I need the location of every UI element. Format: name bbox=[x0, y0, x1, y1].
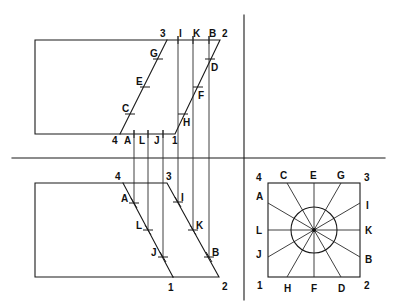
point-label-K: K bbox=[193, 28, 201, 39]
end-label-D: D bbox=[338, 283, 345, 294]
point-label-B: B bbox=[209, 28, 216, 39]
point-label-E: E bbox=[136, 76, 143, 87]
corner-label-3: 3 bbox=[160, 28, 166, 39]
end-label-F: F bbox=[311, 283, 317, 294]
point-label-F: F bbox=[198, 90, 204, 101]
point-label-J: J bbox=[151, 247, 157, 258]
point-label-K: K bbox=[196, 220, 204, 231]
point-label-L: L bbox=[136, 220, 142, 231]
top-view: 3241IKBALJGECDFH bbox=[35, 28, 228, 146]
corner-label-2: 2 bbox=[222, 28, 228, 39]
point-label-I: I bbox=[181, 192, 184, 203]
corner-label-4: 4 bbox=[112, 135, 118, 146]
end-label-4: 4 bbox=[256, 172, 262, 183]
corner-label-1: 1 bbox=[172, 135, 178, 146]
front-view: 4312ALJIKB bbox=[35, 171, 228, 293]
orthographic-projection-diagram: 3241IKBALJGECDFH 4312ALJIKB 4CEG3AILKJB1… bbox=[0, 0, 395, 308]
point-label-G: G bbox=[150, 48, 158, 59]
end-label-2: 2 bbox=[364, 280, 370, 291]
point-label-D: D bbox=[211, 62, 218, 73]
end-label-I: I bbox=[366, 200, 369, 211]
end-label-K: K bbox=[365, 225, 373, 236]
corner-label-2: 2 bbox=[222, 281, 228, 292]
point-label-I: I bbox=[179, 28, 182, 39]
point-label-C: C bbox=[122, 103, 129, 114]
end-label-C: C bbox=[280, 170, 287, 181]
end-view: 4CEG3AILKJB1HFD2 bbox=[256, 170, 373, 294]
end-label-G: G bbox=[337, 170, 345, 181]
point-label-B: B bbox=[212, 247, 219, 258]
point-label-H: H bbox=[183, 117, 190, 128]
end-label-3: 3 bbox=[364, 172, 370, 183]
end-label-1: 1 bbox=[257, 280, 263, 291]
view-dividers bbox=[12, 15, 385, 300]
corner-label-3: 3 bbox=[166, 171, 172, 182]
end-label-L: L bbox=[256, 225, 262, 236]
point-label-L: L bbox=[139, 135, 145, 146]
point-label-J: J bbox=[154, 135, 160, 146]
point-label-A: A bbox=[121, 193, 128, 204]
point-label-A: A bbox=[124, 135, 131, 146]
corner-label-4: 4 bbox=[115, 171, 121, 182]
center-point bbox=[312, 228, 316, 232]
end-label-E: E bbox=[310, 170, 317, 181]
end-label-B: B bbox=[365, 254, 372, 265]
end-label-A: A bbox=[256, 191, 263, 202]
corner-label-1: 1 bbox=[168, 282, 174, 293]
diagram-canvas: 3241IKBALJGECDFH 4312ALJIKB 4CEG3AILKJB1… bbox=[0, 0, 395, 308]
end-label-H: H bbox=[284, 283, 291, 294]
end-label-J: J bbox=[256, 249, 262, 260]
